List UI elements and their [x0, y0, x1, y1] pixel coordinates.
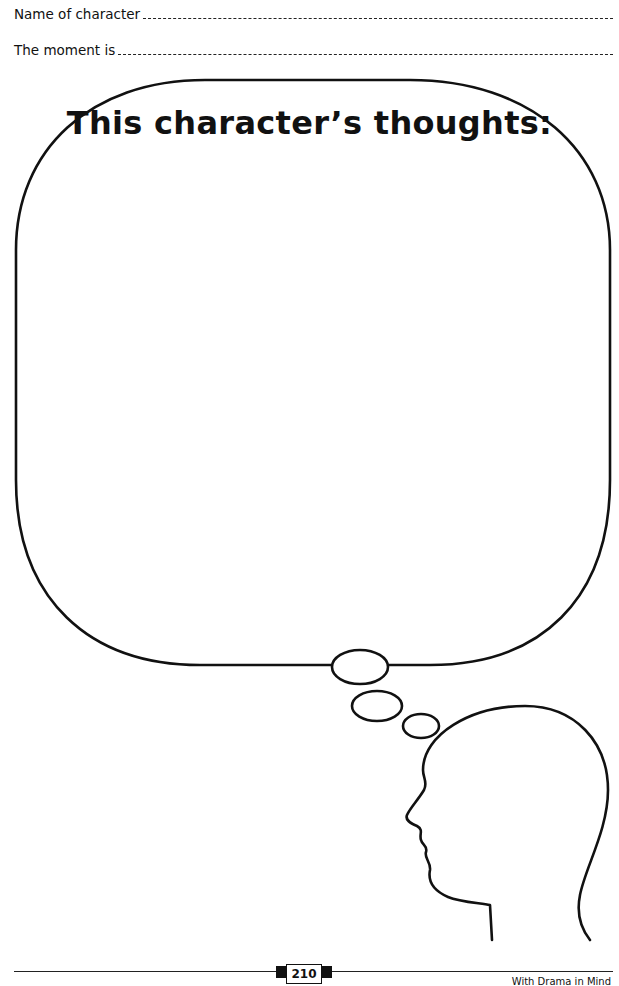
thought-circle-large: [332, 650, 388, 684]
thought-circle-small: [403, 714, 439, 738]
bubble-title: This character’s thoughts:: [0, 104, 619, 142]
thought-illustration: [0, 0, 619, 986]
head-profile-icon: [407, 706, 608, 940]
thought-circle-medium: [352, 691, 402, 721]
page-number: 210: [286, 964, 322, 984]
thought-bubble[interactable]: [16, 80, 610, 665]
book-title: With Drama in Mind: [512, 976, 611, 986]
